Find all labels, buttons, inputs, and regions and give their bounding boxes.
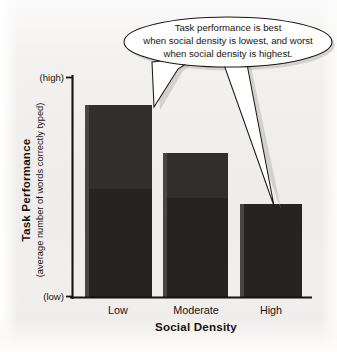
x-tick-label-low: Low [108,304,128,316]
figure-container: Task performance is best when social den… [0,0,337,352]
bars-group [85,105,302,297]
bar-moderate[interactable] [163,153,228,297]
x-tick-label-moderate: Moderate [173,304,219,316]
x-tick-label-high: High [260,304,282,316]
x-axis-labels: Low Moderate High Social Density [108,304,282,333]
y-axis-labels: (high) (low) Task Performance (average n… [19,72,64,302]
bar-low[interactable] [85,105,152,297]
callout-annotation[interactable]: Task performance is best when social den… [124,17,335,209]
y-axis-title: Task Performance [19,138,32,241]
x-axis-title: Social Density [155,320,237,333]
callout-tail-right [223,59,274,206]
bar-chart: Task performance is best when social den… [0,0,337,352]
callout-line-1: Task performance is best [175,22,282,33]
callout-line-3: when social density is highest. [162,48,292,59]
y-axis-subtitle: (average number of words correctly typed… [35,103,45,278]
callout-line-2: when social density is lowest, and worst [142,35,313,46]
y-axis-low-label: (low) [43,291,64,302]
y-axis-high-label: (high) [39,72,64,83]
bar-high[interactable] [240,204,302,297]
